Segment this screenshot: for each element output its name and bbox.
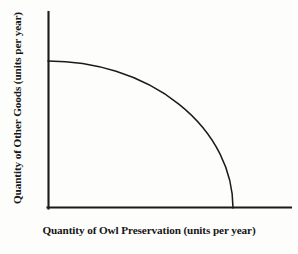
x-axis-label: Quantity of Owl Preservation (units per …: [0, 224, 298, 236]
ppf-curve: [48, 61, 233, 208]
ppf-figure: Quantity of Other Goods (units per year)…: [0, 0, 298, 254]
ppf-plot-area: [0, 0, 298, 254]
